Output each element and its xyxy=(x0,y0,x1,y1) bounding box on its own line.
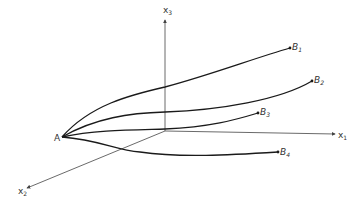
x2-axis-label: x2 xyxy=(18,187,27,197)
x2-axis xyxy=(27,131,165,188)
point-b2 xyxy=(311,80,314,83)
x1-axis-label: x1 xyxy=(338,131,347,141)
point-b1 xyxy=(289,47,292,50)
x1-axis xyxy=(165,131,335,134)
point-b2-label: B2 xyxy=(314,76,324,86)
x3-axis-label: x3 xyxy=(163,6,172,16)
point-a-label: A xyxy=(54,134,60,143)
point-b1-label: B1 xyxy=(292,43,302,53)
trajectory-diagram xyxy=(0,0,360,206)
point-b4-label: B4 xyxy=(280,148,290,158)
curve-a-b4 xyxy=(62,137,278,155)
point-b3-label: B3 xyxy=(260,108,270,118)
curve-a-b1 xyxy=(62,48,290,137)
point-b4 xyxy=(277,151,280,154)
point-b3 xyxy=(257,112,260,115)
